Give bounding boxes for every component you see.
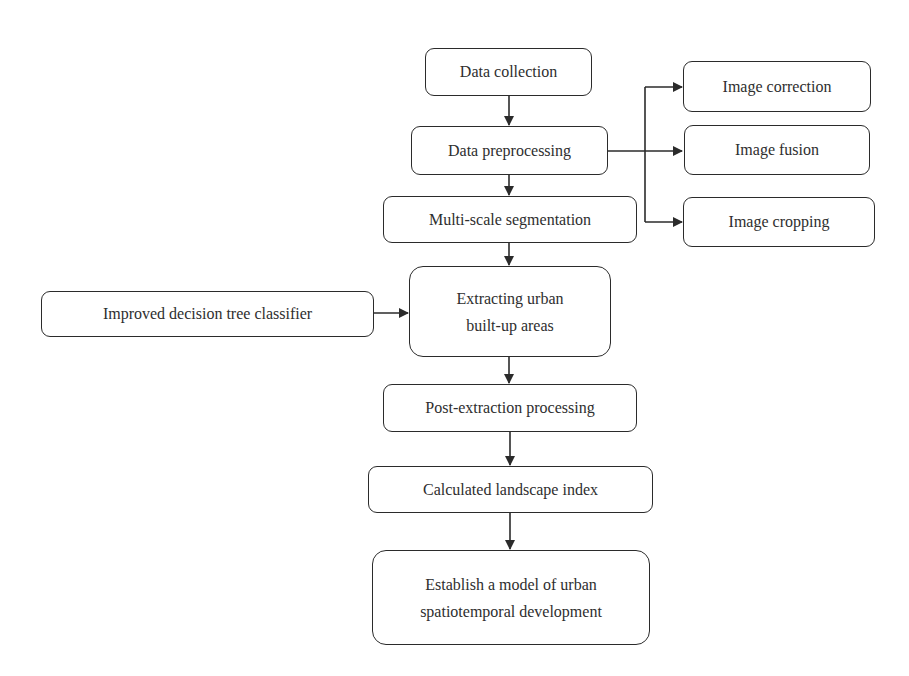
- node-extracting-urban-built-up-areas: Extracting urban built-up areas: [409, 266, 611, 357]
- node-label: Image correction: [723, 76, 832, 98]
- flowchart-canvas: Data collection Data preprocessing Multi…: [0, 0, 909, 676]
- node-calculated-landscape-index: Calculated landscape index: [368, 466, 653, 513]
- node-label: Improved decision tree classifier: [103, 303, 312, 325]
- node-image-correction: Image correction: [683, 61, 871, 112]
- node-label: Calculated landscape index: [423, 479, 598, 501]
- node-multi-scale-segmentation: Multi-scale segmentation: [383, 196, 637, 243]
- node-label: Post-extraction processing: [425, 397, 594, 419]
- node-data-preprocessing: Data preprocessing: [411, 126, 608, 175]
- node-establish-urban-development-model: Establish a model of urban spatiotempora…: [372, 550, 650, 645]
- node-label: Extracting urban built-up areas: [456, 285, 563, 339]
- node-label: Image cropping: [729, 211, 830, 233]
- node-label: Data preprocessing: [448, 140, 571, 162]
- node-label: Image fusion: [735, 139, 819, 161]
- node-label: Data collection: [460, 61, 557, 83]
- node-image-fusion: Image fusion: [684, 125, 870, 175]
- node-image-cropping: Image cropping: [683, 197, 875, 247]
- node-improved-decision-tree-classifier: Improved decision tree classifier: [41, 291, 374, 337]
- node-post-extraction-processing: Post-extraction processing: [383, 384, 637, 432]
- node-label: Establish a model of urban spatiotempora…: [420, 571, 602, 625]
- node-data-collection: Data collection: [425, 48, 592, 96]
- node-label: Multi-scale segmentation: [429, 209, 591, 231]
